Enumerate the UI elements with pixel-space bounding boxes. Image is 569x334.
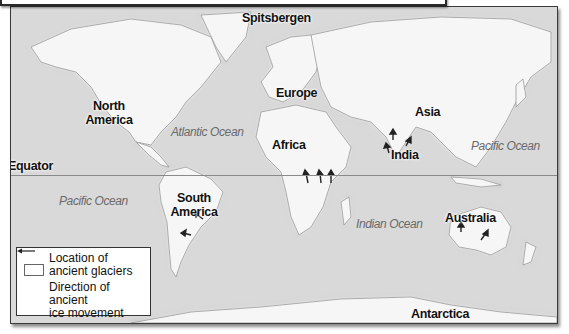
legend-glacier-label: Location of ancient glaciers: [49, 252, 132, 278]
antarctica-shape: [131, 297, 557, 323]
label-pacific-ocean-east: Pacific Ocean: [471, 139, 540, 153]
label-antarctica: Antarctica: [411, 307, 469, 321]
label-pacific-ocean-west: Pacific Ocean: [59, 194, 128, 208]
label-europe: Europe: [276, 86, 317, 100]
caption-box: [0, 0, 447, 6]
madagascar-shape: [341, 197, 351, 225]
map-legend: Location of ancient glaciers Direction o…: [16, 247, 151, 316]
equator-label: Equator: [10, 159, 53, 173]
label-south-america: South America: [166, 191, 222, 219]
central-america-shape: [136, 142, 169, 167]
label-north-america: North America: [79, 99, 139, 127]
label-indian-ocean: Indian Ocean: [356, 217, 423, 231]
equator-line: [11, 175, 557, 176]
new-zealand-shape: [523, 242, 536, 265]
world-map: Equator Spitsbergen North America Europe…: [10, 6, 558, 324]
south-america-shape: [159, 167, 223, 277]
arrow-left-icon: [17, 248, 35, 254]
label-australia: Australia: [445, 211, 496, 225]
label-atlantic-ocean: Atlantic Ocean: [171, 125, 243, 139]
label-india: India: [391, 148, 419, 162]
glacier-swatch-icon: [24, 264, 44, 276]
indonesia-shape: [451, 177, 501, 187]
legend-movement-label: Direction of ancient ice movement: [49, 281, 150, 320]
label-spitsbergen: Spitsbergen: [242, 11, 311, 25]
label-africa: Africa: [272, 138, 306, 152]
label-asia: Asia: [415, 105, 440, 119]
africa-shape: [256, 105, 351, 235]
